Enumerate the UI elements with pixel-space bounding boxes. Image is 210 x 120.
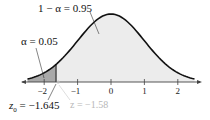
non-rejection-region [56,14,194,82]
z0-value: = −1.645 [17,99,60,111]
z0-leader-line [48,84,56,100]
x-tick-label: −1 [71,86,81,96]
normal-distribution-chart: −2−1012 1 − α = 0.95 α = 0.05 z0 = −1.64… [0,0,210,120]
x-tick-label: −2 [37,86,47,96]
test-statistic-marker [57,80,60,83]
x-axis: −2−1012 [21,79,202,96]
x-tick-label: 2 [176,86,181,96]
alpha-leader-line [36,48,44,78]
axis-arrow-left-icon [21,80,26,84]
critical-value-label: z0 = −1.645 [8,99,60,114]
confidence-label: 1 − α = 0.95 [38,2,92,14]
alpha-label: α = 0.05 [21,35,58,47]
x-tick-label: 0 [109,86,114,96]
z-stat-leader-line [59,85,70,100]
test-statistic-label: z = −1.58 [70,99,108,110]
x-tick-label: 1 [142,86,147,96]
axis-arrow-right-icon [197,80,202,84]
